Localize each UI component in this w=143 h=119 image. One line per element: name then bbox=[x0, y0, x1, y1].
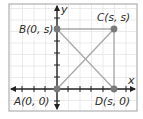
y-axis-label: y bbox=[60, 3, 68, 16]
point-label-c: C(s, s) bbox=[97, 11, 130, 23]
point-label-b: B(0, s) bbox=[19, 23, 53, 35]
coordinate-square-diagram: xy A(0, 0)B(0, s)C(s, s)D(s, 0) bbox=[0, 0, 143, 119]
point-c bbox=[111, 26, 118, 33]
y-axis-down-arrow-icon bbox=[54, 104, 60, 110]
square-segments bbox=[57, 29, 114, 89]
point-label-a: A(0, 0) bbox=[13, 95, 49, 107]
point-labels: A(0, 0)B(0, s)C(s, s)D(s, 0) bbox=[13, 11, 130, 107]
point-d bbox=[111, 86, 118, 93]
point-a bbox=[54, 86, 61, 93]
point-label-d: D(s, 0) bbox=[95, 95, 130, 107]
x-axis-label: x bbox=[127, 74, 135, 87]
point-b bbox=[54, 26, 61, 33]
y-axis-up-arrow-icon bbox=[54, 5, 60, 11]
